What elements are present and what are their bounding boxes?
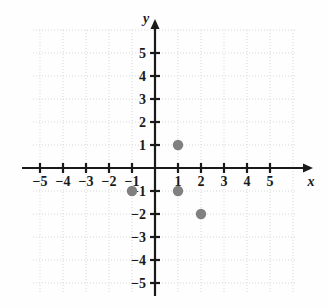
x-tick-label: −5: [33, 174, 48, 189]
y-tick-label: 1: [139, 138, 146, 153]
x-tick-label: 5: [267, 174, 274, 189]
data-point: [173, 186, 183, 196]
y-tick-label: 2: [139, 115, 146, 130]
x-tick-label: −4: [56, 174, 71, 189]
y-tick-label: 3: [139, 92, 146, 107]
x-tick-label: −3: [79, 174, 94, 189]
coordinate-plane-figure: −5−4−3−2−11234554321−1−2−3−4−5 x y: [0, 0, 328, 308]
data-point: [196, 209, 206, 219]
coordinate-plane-svg: −5−4−3−2−11234554321−1−2−3−4−5 x y: [0, 0, 328, 308]
data-point: [127, 186, 137, 196]
y-tick-label: −3: [131, 230, 146, 245]
y-tick-label: −4: [131, 253, 146, 268]
y-tick-label: −2: [131, 207, 146, 222]
x-tick-label: 4: [244, 174, 251, 189]
y-tick-label: −5: [131, 276, 146, 291]
data-point: [173, 140, 183, 150]
grid-lines: [33, 30, 296, 292]
x-tick-label: −2: [102, 174, 117, 189]
x-tick-label: 2: [198, 174, 205, 189]
x-tick-label: 3: [221, 174, 228, 189]
y-tick-label: 4: [139, 69, 146, 84]
x-axis-label: x: [307, 174, 315, 189]
y-axis-label: y: [141, 11, 150, 26]
y-tick-label: 5: [139, 46, 146, 61]
axes: [22, 19, 313, 296]
